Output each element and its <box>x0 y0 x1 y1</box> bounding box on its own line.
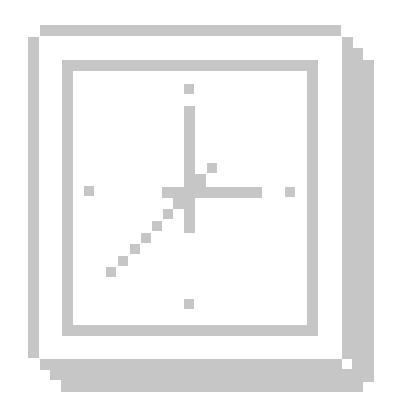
hour-marker-3 <box>285 187 295 197</box>
clock-hand-hub-upper-right <box>195 174 206 187</box>
clock-hand-hub-dot <box>207 163 217 173</box>
clock-hand-diag-2 <box>152 221 162 231</box>
outer-frame-bottom-shadow-2 <box>50 369 363 380</box>
hour-marker-12 <box>184 84 194 94</box>
clock-hand-diag-3 <box>141 233 151 243</box>
clock-hand-diag-5 <box>118 256 128 266</box>
outer-frame-right-shadow-2 <box>352 48 363 370</box>
face-frame-right <box>307 60 318 335</box>
clock-hand-hub-lower-left <box>173 197 184 209</box>
clock-hand-vertical-hand <box>184 106 195 233</box>
face-frame-bottom <box>62 325 318 336</box>
clock-hand-diag-1 <box>163 209 173 219</box>
outer-frame-left-bar <box>28 37 39 358</box>
clock-hand-diag-6 <box>106 267 116 277</box>
hour-marker-9 <box>84 186 94 196</box>
outer-frame-top-bar <box>40 25 341 36</box>
outer-frame-bottom-shadow-3 <box>61 380 363 392</box>
face-frame-left <box>62 60 73 335</box>
clock-hand-diag-4 <box>130 244 140 254</box>
face-frame-top <box>62 60 318 71</box>
outer-frame-right-shadow-3 <box>363 60 374 382</box>
clock-icon <box>0 0 395 415</box>
hour-marker-6 <box>184 299 194 309</box>
